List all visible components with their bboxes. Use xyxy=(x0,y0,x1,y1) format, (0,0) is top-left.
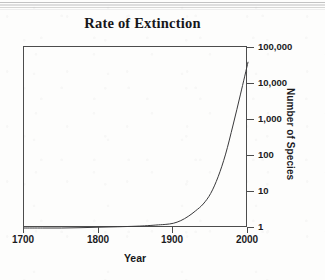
scan-artifact-line xyxy=(0,7,325,8)
y-tick-1000 xyxy=(247,119,254,120)
x-axis-title: Year xyxy=(23,252,247,264)
extinction-rate-figure: Rate of Extinction 100,000 10,000 1,000 … xyxy=(0,0,325,280)
y-tick-100 xyxy=(247,155,254,156)
scan-artifact-line xyxy=(0,9,325,10)
y-label-1: 1 xyxy=(258,222,263,232)
extinction-curve xyxy=(24,47,248,228)
y-axis-title: Number of Species xyxy=(285,88,296,180)
x-label-2000: 2000 xyxy=(224,235,270,245)
scan-artifact-line xyxy=(0,2,325,3)
x-tick-1700 xyxy=(23,227,24,233)
y-label-1000: 1,000 xyxy=(258,114,282,124)
x-label-1800: 1800 xyxy=(75,235,121,245)
y-tick-1 xyxy=(247,227,254,228)
chart-title: Rate of Extinction xyxy=(0,15,285,32)
y-tick-100000 xyxy=(247,47,254,48)
y-label-100000: 100,000 xyxy=(258,42,292,52)
y-tick-10000 xyxy=(247,83,254,84)
y-tick-10 xyxy=(247,191,254,192)
plot-area xyxy=(23,46,247,227)
x-tick-1800 xyxy=(98,227,99,233)
scan-artifact-line xyxy=(0,4,325,6)
y-label-10: 10 xyxy=(258,186,269,196)
y-label-100: 100 xyxy=(258,150,274,160)
x-label-1900: 1900 xyxy=(149,235,195,245)
y-label-10000: 10,000 xyxy=(258,78,287,88)
x-tick-2000 xyxy=(247,227,248,233)
x-label-1700: 1700 xyxy=(0,235,46,245)
x-tick-1900 xyxy=(172,227,173,233)
